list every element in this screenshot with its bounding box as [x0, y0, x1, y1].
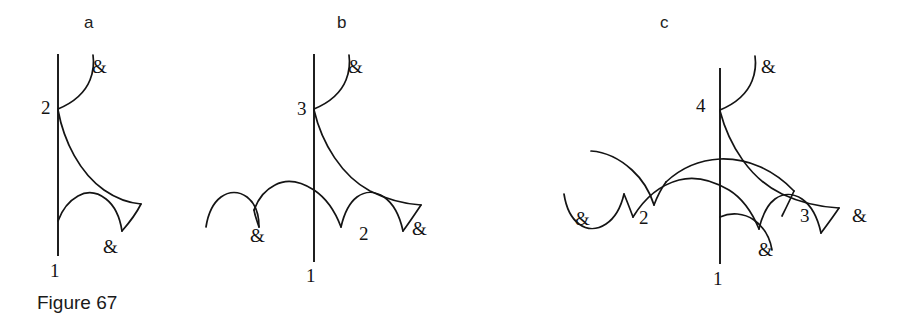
- panel-a-long-descending-curve: [58, 110, 141, 204]
- figure-67-container: a b c 2 1 & & 3 1 2 & & & 4 1 2 3 & & & …: [0, 0, 917, 327]
- panel-letter-c: c: [660, 14, 669, 31]
- panel-letter-b: b: [337, 14, 346, 31]
- panel-a-ampersand-top: &: [92, 57, 107, 76]
- panel-a-right-tip-curve: [122, 204, 141, 231]
- panel-b-upper-hook-curve: [314, 55, 350, 109]
- panel-b-node-label-1: 1: [306, 266, 316, 285]
- figure-caption: Figure 67: [37, 293, 117, 314]
- panel-a-lower-arc: [58, 193, 122, 231]
- panel-c-ampersand-far-left: &: [575, 209, 590, 228]
- panel-b-left-small-arc: [206, 193, 259, 228]
- panel-c-left-small-arc: [564, 194, 624, 229]
- panel-a-upper-hook-curve: [58, 55, 94, 109]
- panel-c-left-inner-tip-curve: [624, 194, 633, 217]
- panel-c-outermost-sweeping-arc: [666, 159, 794, 191]
- panel-c-ampersand-far-right: &: [852, 206, 867, 225]
- panel-b-node-label-3: 3: [297, 99, 307, 118]
- panel-b-long-descending-curve: [314, 110, 421, 205]
- panel-c-outer-arc-inner-tip: [654, 182, 666, 205]
- panel-c-ampersand-top: &: [761, 57, 776, 76]
- panel-b-ampersand-top: &: [348, 57, 363, 76]
- panel-c-right-tip-curve: [821, 208, 839, 233]
- panel-b-node-label-2: 2: [359, 224, 369, 243]
- panel-b-drawing: [206, 54, 421, 262]
- panel-a-node-label-2: 2: [41, 98, 51, 117]
- panel-b-wide-crossing-arc: [254, 182, 341, 227]
- panel-a-drawing: [58, 54, 141, 256]
- panel-a-node-label-1: 1: [50, 261, 60, 280]
- panel-c-node-label-4: 4: [696, 96, 706, 115]
- panel-c-node-label-3: 3: [800, 206, 810, 225]
- panel-c-medium-crossing-arc: [633, 178, 759, 229]
- panel-a-ampersand-bottom: &: [103, 237, 118, 256]
- figure-drawing-canvas: [0, 0, 917, 327]
- panel-b-ampersand-right: &: [412, 219, 427, 238]
- panel-letter-a: a: [84, 14, 93, 31]
- panel-b-ampersand-left: &: [250, 226, 265, 245]
- panel-b-right-small-arc: [341, 193, 403, 232]
- panel-c-ampersand-bottom-center: &: [758, 240, 773, 259]
- panel-c-upper-hook-curve: [720, 56, 756, 110]
- panel-c-node-label-1: 1: [713, 269, 723, 288]
- panel-c-node-label-2: 2: [639, 208, 649, 227]
- panel-c-drawing: [564, 56, 839, 264]
